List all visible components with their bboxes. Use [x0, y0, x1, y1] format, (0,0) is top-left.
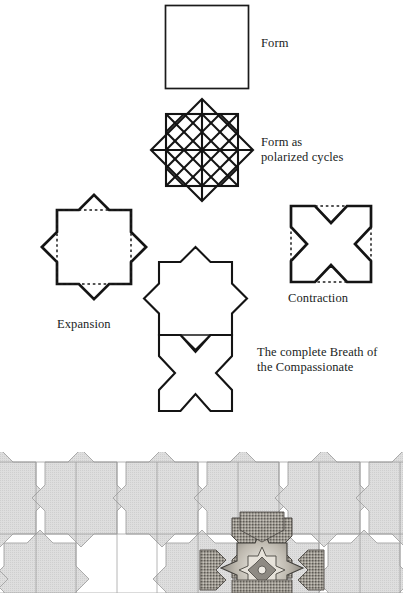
- figure-tiling-strip: [0, 452, 403, 593]
- contraction-cross-outline: [291, 206, 371, 282]
- figure-polarized-cycles: [152, 100, 264, 200]
- caption-complete-breath: The complete Breath of the Compassionate: [257, 345, 378, 374]
- caption-form: Form: [261, 36, 289, 51]
- figure-contraction: [279, 200, 383, 294]
- caption-polarized-cycles: Form as polarized cycles: [261, 135, 343, 164]
- figure-form-square: [160, 0, 255, 95]
- form-square-outline: [166, 6, 249, 89]
- figure-expansion: [33, 186, 153, 306]
- caption-contraction: Contraction: [288, 291, 348, 306]
- tiling-tiles: [0, 449, 403, 593]
- figure-complete-breath: [140, 243, 265, 423]
- caption-expansion: Expansion: [57, 317, 111, 332]
- diagram-page: Form Form as polarized cycles Expansion …: [0, 0, 403, 593]
